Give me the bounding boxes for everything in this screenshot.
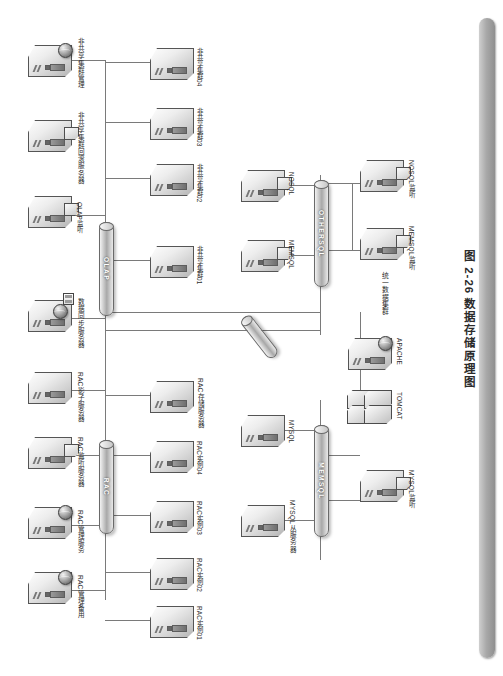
node-data-sync-server[interactable] xyxy=(28,300,70,330)
connector-line xyxy=(105,122,150,123)
node-label: RAC影子服务器 xyxy=(76,372,83,423)
node-nosql-listener[interactable] xyxy=(360,160,402,190)
node-label: RAC监听服务器 xyxy=(76,437,83,488)
node-label: MYSQL监听 xyxy=(407,470,414,509)
globe-icon xyxy=(378,336,393,351)
node-label: MYSQL从服务器 xyxy=(288,500,295,553)
server-icon xyxy=(150,501,194,533)
node-label: 数据同步服务器 xyxy=(76,298,83,348)
node-rac-instance-01[interactable] xyxy=(150,606,192,636)
bus-memsql[interactable]: MEMSQL xyxy=(314,425,329,537)
server-icon xyxy=(150,606,194,638)
node-rac-listener-server[interactable] xyxy=(28,437,70,467)
node-nonshared-rollback-server[interactable] xyxy=(28,120,70,150)
node-label: MEMSQL监听 xyxy=(407,226,414,270)
node-mysql-listener[interactable] xyxy=(360,470,402,500)
connector-line xyxy=(105,620,150,621)
node-label: 非共享集群04 xyxy=(196,48,202,87)
bus-othersql[interactable]: OTHERSQL xyxy=(314,180,329,287)
node-label: RAC管理服务 xyxy=(76,510,83,553)
node-label: 非共享集群01 xyxy=(196,246,202,285)
server-icon xyxy=(28,372,72,404)
globe-icon xyxy=(58,570,73,585)
server-icon xyxy=(241,415,285,447)
server-icon xyxy=(150,48,194,80)
bus-memsql-label: MEMSQL xyxy=(318,462,325,499)
bus-rac-label: RAC xyxy=(103,478,110,497)
node-label: RAC管理备用 xyxy=(76,575,83,618)
node-rac-instance-03[interactable] xyxy=(150,501,192,531)
node-nonshared-cluster-04[interactable] xyxy=(150,48,192,78)
server-icon xyxy=(150,441,194,473)
node-tomcat[interactable] xyxy=(347,390,391,424)
node-label: APACHE xyxy=(396,338,402,365)
connector-line xyxy=(105,572,150,573)
globe-icon xyxy=(58,43,73,58)
node-label: RAC实例01 xyxy=(196,606,202,640)
connector-spine-lower xyxy=(105,330,320,331)
globe-icon xyxy=(53,304,68,319)
node-mysql-slave[interactable] xyxy=(241,505,283,535)
caption-bar xyxy=(479,18,495,658)
node-label: RAC存储服务器 xyxy=(196,378,203,429)
node-label: RAC实例04 xyxy=(196,441,202,475)
node-label: RAC实例03 xyxy=(196,501,202,535)
node-rac-management-service[interactable] xyxy=(28,507,70,537)
diagram-canvas: OLAP RAC OTHERSQL MEMSQL 非共享集群管理 非共享集群回滚… xyxy=(0,0,503,676)
node-label: 非共享集群管理 xyxy=(76,38,83,88)
bus-othersql-label: OTHERSQL xyxy=(318,210,325,258)
node-rac-storage-server[interactable] xyxy=(150,381,192,411)
group-label-unified-cluster: 统一数据集群 xyxy=(380,272,387,315)
server-icon xyxy=(150,558,194,590)
node-label: MYSQL xyxy=(288,420,294,443)
node-label: OLAP监听 xyxy=(76,202,82,232)
node-memsql-listener[interactable] xyxy=(360,228,402,258)
node-nonshared-cluster-03[interactable] xyxy=(150,108,192,138)
node-label: MEMSQL xyxy=(288,240,294,269)
server-icon xyxy=(150,246,194,278)
node-nosql[interactable] xyxy=(241,170,283,200)
connector-spine-upper xyxy=(105,312,320,313)
node-label: NOSQL xyxy=(288,172,294,195)
node-label: 非共享集群03 xyxy=(196,108,202,147)
server-icon xyxy=(150,381,194,413)
connector-line xyxy=(105,178,150,179)
node-mysql[interactable] xyxy=(241,415,283,445)
server-icon xyxy=(150,108,194,140)
bus-olap-label: OLAP xyxy=(103,257,110,281)
node-label: 非共享集群02 xyxy=(196,164,202,203)
connector-line xyxy=(105,62,150,63)
figure-caption: 图 2-26 数据存储原理图 xyxy=(461,250,477,389)
node-rac-shadow-server[interactable] xyxy=(28,372,70,402)
server-icon xyxy=(150,164,194,196)
node-rac-instance-04[interactable] xyxy=(150,441,192,471)
node-nonshared-cluster-01[interactable] xyxy=(150,246,192,276)
bus-tilted-link[interactable] xyxy=(239,313,280,360)
node-nonshared-cluster-mgmt[interactable] xyxy=(28,45,70,75)
node-rac-instance-02[interactable] xyxy=(150,558,192,588)
connector-unified-cluster xyxy=(352,183,353,251)
node-olap-listener[interactable] xyxy=(28,196,70,226)
bus-olap[interactable]: OLAP xyxy=(99,222,114,316)
node-label: NOSQL监听 xyxy=(407,160,414,199)
chip-icon xyxy=(63,293,74,305)
node-memsql[interactable] xyxy=(241,240,283,270)
node-label: TOMCAT xyxy=(396,392,402,420)
server-icon xyxy=(241,505,285,537)
globe-icon xyxy=(58,505,73,520)
node-nonshared-cluster-02[interactable] xyxy=(150,164,192,194)
node-label: 非共享集群回滚服务器 xyxy=(76,112,83,184)
connector-line xyxy=(105,395,150,396)
node-apache[interactable] xyxy=(348,338,390,368)
node-label: RAC实例02 xyxy=(196,558,202,592)
bus-rac[interactable]: RAC xyxy=(99,440,114,534)
rack-unit-icon xyxy=(364,405,392,424)
node-rac-management-standby[interactable] xyxy=(28,572,70,602)
